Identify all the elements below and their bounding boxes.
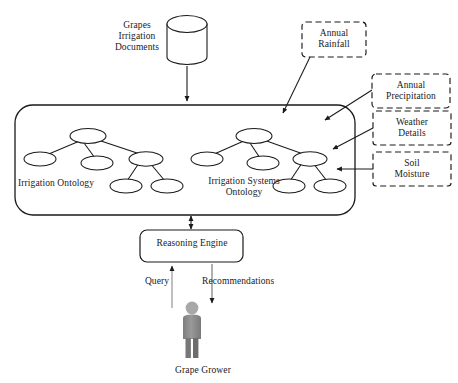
grape-grower-label: Grape Grower bbox=[157, 365, 249, 376]
reasoning-engine-label: Reasoning Engine bbox=[141, 238, 243, 249]
database-cylinder-icon bbox=[167, 16, 207, 65]
annual-rainfall-label: Annual Rainfall bbox=[302, 28, 366, 50]
person-icon bbox=[183, 302, 201, 358]
query-label: Query bbox=[136, 276, 178, 287]
recommendations-label: Recommendations bbox=[202, 276, 288, 287]
soil-moisture-label: Soil Moisture bbox=[375, 158, 449, 180]
irrigation-ontology-label: Irrigation Ontology bbox=[18, 178, 138, 189]
source-label: Grapes Irrigation Documents bbox=[108, 20, 166, 54]
diagram-canvas: Grapes Irrigation Documents Annual Rainf… bbox=[0, 0, 458, 383]
weather-details-label: Weather Details bbox=[375, 117, 449, 139]
irrigation-systems-ontology-label: Irrigation Systems Ontology bbox=[192, 176, 296, 198]
annual-precipitation-label: Annual Precipitation bbox=[372, 80, 450, 102]
